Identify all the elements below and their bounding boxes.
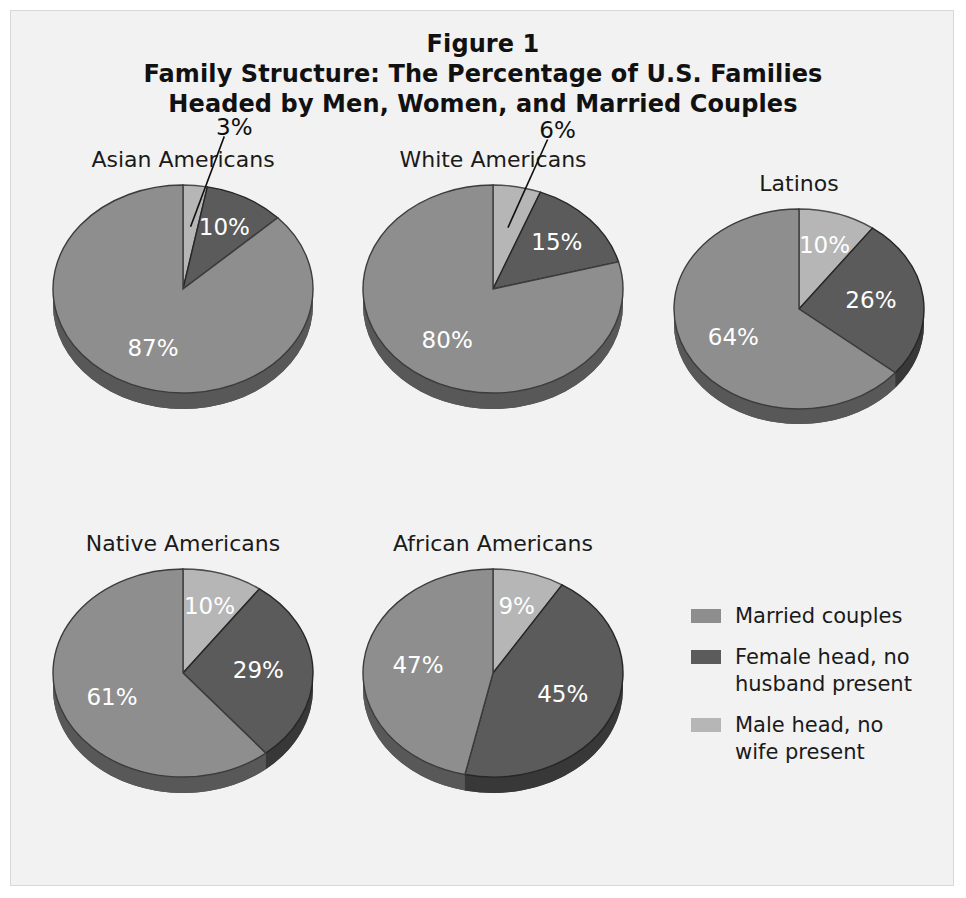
slice-label-married: 61% [86, 684, 137, 710]
figure-title-line-3: Headed by Men, Women, and Married Couple… [11, 89, 954, 119]
figure-title: Figure 1 Family Structure: The Percentag… [11, 29, 954, 119]
pie-chart: 10%29%61% [33, 563, 333, 857]
pie-chart: 9%45%47% [343, 563, 643, 857]
legend-label: Female head, no husband present [735, 644, 925, 698]
slice-label-female_head: 15% [531, 229, 582, 255]
slice-label-male_head: 9% [498, 593, 534, 619]
slice-label-married: 47% [392, 652, 443, 678]
pie-caption: White Americans [343, 147, 643, 172]
legend-item-married[interactable]: Married couples [691, 603, 941, 630]
slice-label-married: 80% [422, 327, 473, 353]
slice-label-male_head: 3% [216, 114, 253, 140]
slice-label-married: 87% [127, 335, 178, 361]
pie-svg-wrap: 6%15%80% [343, 179, 643, 473]
figure-title-line-1: Figure 1 [11, 29, 954, 59]
slice-label-male_head: 10% [184, 593, 235, 619]
slice-label-female_head: 10% [199, 214, 250, 240]
chart-legend: Married couplesFemale head, no husband p… [691, 603, 941, 780]
legend-swatch-icon [691, 718, 721, 732]
slice-label-female_head: 29% [233, 657, 284, 683]
pie-chart: 3%10%87% [33, 179, 333, 473]
pie-svg-wrap: 9%45%47% [343, 563, 643, 857]
legend-item-male_head[interactable]: Male head, no wife present [691, 712, 941, 766]
pie-caption: Latinos [649, 171, 949, 196]
legend-item-female_head[interactable]: Female head, no husband present [691, 644, 941, 698]
pie-svg-wrap: 10%26%64% [649, 203, 949, 488]
figure-title-line-2: Family Structure: The Percentage of U.S.… [11, 59, 954, 89]
pie-caption: African Americans [343, 531, 643, 556]
legend-label: Male head, no wife present [735, 712, 925, 766]
slice-label-female_head: 26% [845, 287, 896, 313]
slice-label-married: 64% [708, 324, 759, 350]
pie-chart: 6%15%80% [343, 179, 643, 473]
legend-swatch-icon [691, 609, 721, 623]
pie-svg-wrap: 10%29%61% [33, 563, 333, 857]
figure-frame: Figure 1 Family Structure: The Percentag… [10, 10, 954, 886]
pie-chart: 10%26%64% [649, 203, 949, 488]
pie-caption: Native Americans [33, 531, 333, 556]
pie-svg-wrap: 3%10%87% [33, 179, 333, 473]
slice-label-male_head: 10% [799, 232, 850, 258]
pie-caption: Asian Americans [33, 147, 333, 172]
slice-label-female_head: 45% [537, 681, 588, 707]
legend-swatch-icon [691, 650, 721, 664]
slice-label-male_head: 6% [539, 117, 576, 143]
legend-label: Married couples [735, 603, 902, 630]
